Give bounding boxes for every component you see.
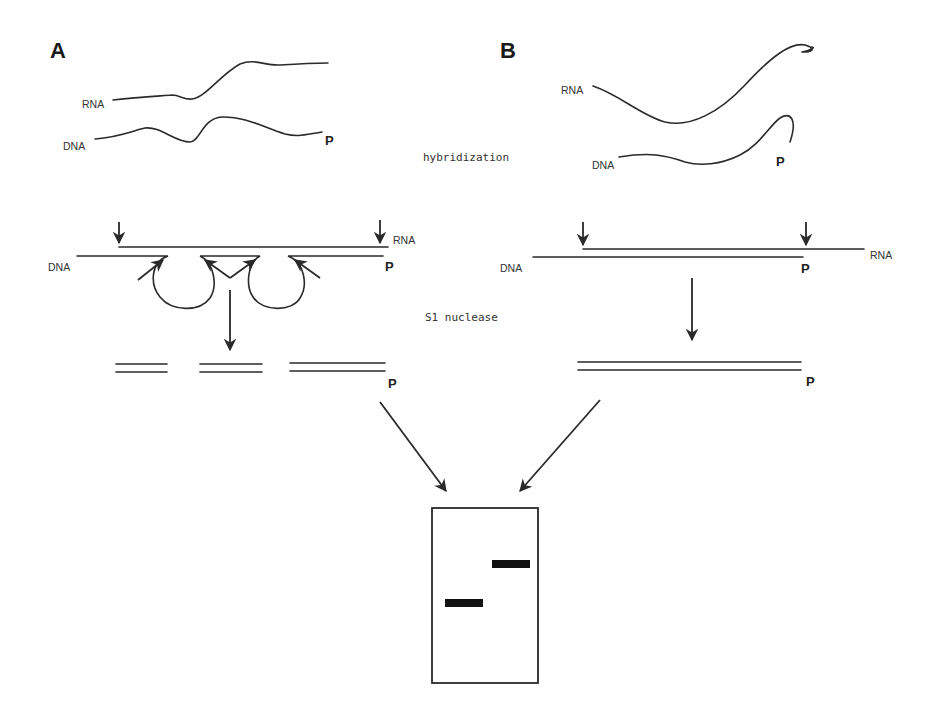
panel-b-products-5prime-label: P <box>806 374 815 389</box>
gel <box>432 508 538 683</box>
panel-b-hybrid: RNA DNA P <box>500 222 892 340</box>
panel-a-hybrid: RNA DNA P <box>48 220 415 350</box>
panel-b-rna-label: RNA <box>561 84 583 96</box>
panel-b-hybrid-5prime-label: P <box>801 261 810 276</box>
panel-b-single-strands: RNA DNA P <box>561 45 813 171</box>
panel-label-a: A <box>50 38 66 63</box>
arrow-to-gel-a-icon <box>380 402 446 491</box>
gel-band-a <box>445 599 483 607</box>
panel-a-single-strands: RNA DNA P <box>63 62 334 152</box>
panel-b-hybrid-dna-label: DNA <box>500 262 522 274</box>
panel-a-hybrid-rna-label: RNA <box>393 234 415 246</box>
panel-b-5prime-label: P <box>776 154 785 169</box>
panel-b-hybrid-rna-label: RNA <box>870 249 892 261</box>
cut-arrow-icon <box>230 260 255 278</box>
panel-label-b: B <box>500 38 516 63</box>
panel-b-dna-label: DNA <box>592 159 614 171</box>
panel-a-products-5prime-label: P <box>388 376 397 391</box>
panel-a-dna-strand <box>95 117 322 142</box>
panel-a-dna-label: DNA <box>63 140 85 152</box>
panel-a-5prime-label: P <box>325 133 334 148</box>
panel-b-dna-strand <box>619 116 793 164</box>
panel-a-hybrid-dna-label: DNA <box>48 261 70 273</box>
gel-outline <box>432 508 538 683</box>
gel-band-b <box>492 560 530 568</box>
cut-arrow-icon <box>205 260 230 278</box>
cut-arrow-icon <box>138 260 163 280</box>
panel-a-rna-strand <box>113 62 328 100</box>
panel-a-rna-label: RNA <box>82 98 104 110</box>
s1-mapping-diagram: A B hybridization S1 nuclease RNA DNA P … <box>0 0 940 716</box>
cut-arrow-icon <box>295 260 320 278</box>
step-hybridization-label: hybridization <box>423 151 509 164</box>
panel-b-rna-strand <box>593 45 813 124</box>
panel-a-hybrid-5prime-label: P <box>385 259 394 274</box>
arrow-to-gel-b-icon <box>520 400 600 491</box>
step-s1-nuclease-label: S1 nuclease <box>425 311 498 324</box>
panel-a-products: P <box>116 363 397 391</box>
panel-b-products: P <box>578 362 815 389</box>
